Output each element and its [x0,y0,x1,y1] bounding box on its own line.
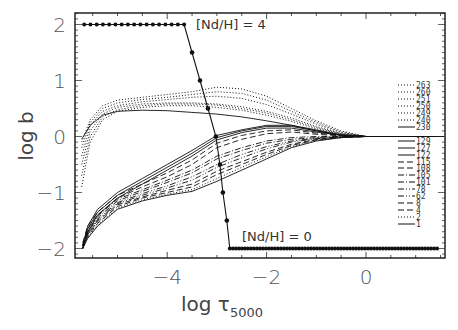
y-tick-label: 1 [53,69,66,93]
chart: 2632602512502492402301291271221151081051… [0,0,458,330]
legend-label: 1 [416,220,421,229]
x-tick-label: −2 [252,265,281,289]
profile-marker [107,23,111,27]
profile-marker [88,23,92,27]
profile-marker [218,162,223,167]
y-tick-label: −1 [37,181,66,205]
curve-115 [83,130,444,243]
profile-marker [126,23,130,27]
x-tick-label: −4 [152,265,181,289]
curve-250 [82,103,444,165]
x-tick-label: 0 [360,265,373,289]
profile-marker [225,218,230,223]
x-axis-title-main: log τ [181,292,230,316]
profile-marker [176,23,180,27]
profile-marker [198,78,203,83]
profile-marker [138,23,142,27]
x-axis-title: log τ5000 [181,292,263,320]
curve-240 [82,106,444,187]
profile-marker [145,23,149,27]
curve-129 [83,125,444,245]
y-tick-label: 2 [53,13,66,37]
legend-label: 230 [416,123,431,132]
profile-marker [182,23,186,27]
profile-marker [221,190,226,195]
profile-marker [190,50,195,55]
profile-marker [82,23,86,27]
profile-marker [206,106,211,111]
x-axis-title-subscript: 5000 [230,305,263,320]
annotation-nd-h-0: [Nd/H] = 0 [242,229,312,244]
profile-marker [163,23,167,27]
profile-marker [214,134,219,139]
legend: 2632602512502492402301291271221151081051… [398,81,431,229]
y-tick-label: 0 [53,125,66,149]
annotation-nd-h-4: [Nd/H] = 4 [196,17,266,32]
profile-marker [132,23,136,27]
profile-marker [170,23,174,27]
profile-marker [101,23,105,27]
profile-marker [95,23,99,27]
profile-marker [120,23,124,27]
y-axis-title: log b [14,111,38,161]
y-tick-label: −2 [37,237,66,261]
profile-marker [151,23,155,27]
profile-marker [157,23,161,27]
curve-260 [82,92,444,148]
profile-marker [113,23,117,27]
departure-coefficient-curves [82,87,444,248]
